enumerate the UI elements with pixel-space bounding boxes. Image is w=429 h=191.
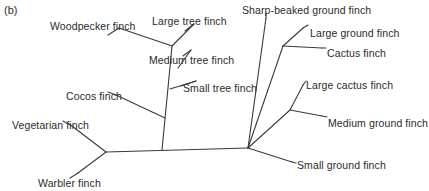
medium-ground-leader	[322, 116, 327, 117]
phylogenetic-tree-figure: (b) Woodpecker finchLarge tree finchMedi…	[0, 0, 429, 191]
cocos-branch	[116, 95, 165, 118]
tip-label-medium-ground-finch: Medium ground finch	[328, 117, 428, 129]
tip-label-sharp-beaked-ground-finch: Sharp-beaked ground finch	[242, 4, 371, 16]
tip-label-large-cactus-finch: Large cactus finch	[306, 79, 393, 91]
medium-ground-branch	[290, 110, 322, 116]
tip-label-vegetarian-finch: Vegetarian finch	[12, 119, 89, 131]
small-ground-leader	[292, 162, 296, 163]
tip-label-large-tree-finch: Large tree finch	[152, 15, 227, 27]
large-ground-leader	[303, 25, 308, 28]
warbler-branch	[78, 152, 106, 173]
tip-label-cocos-finch: Cocos finch	[66, 90, 122, 102]
tip-label-cactus-finch: Cactus finch	[327, 47, 386, 59]
cactus-branch	[283, 46, 322, 48]
tip-label-woodpecker-finch: Woodpecker finch	[50, 20, 136, 32]
small-ground-branch	[248, 148, 292, 162]
tip-label-small-ground-finch: Small ground finch	[297, 159, 386, 171]
large-ground-branch	[283, 28, 303, 46]
large-cactus-branch	[290, 85, 303, 110]
tip-label-medium-tree-finch: Medium tree finch	[149, 54, 234, 66]
tip-label-warbler-finch: Warbler finch	[38, 177, 101, 189]
large-tree-branch	[172, 24, 194, 46]
trunk	[106, 148, 248, 152]
tip-label-small-tree-finch: Small tree finch	[183, 82, 257, 94]
tip-label-large-ground-finch: Large ground finch	[310, 27, 399, 39]
